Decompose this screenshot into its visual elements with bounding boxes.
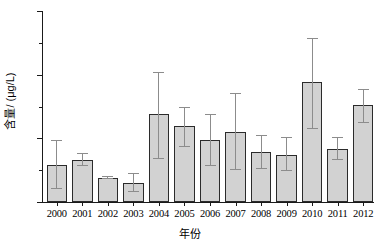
error-bar-cap-lower [179, 146, 190, 147]
x-axis-tick-label: 2000 [44, 208, 70, 220]
error-bar-stem [133, 174, 134, 192]
bar-group[interactable] [251, 11, 272, 202]
bar-group[interactable] [302, 11, 323, 202]
x-axis-tick-label: 2010 [299, 208, 325, 220]
error-bar-cap-upper [281, 137, 292, 138]
x-axis-tick [236, 202, 237, 206]
x-axis-title: 年份 [0, 225, 380, 241]
error-bar-cap-lower [102, 178, 113, 179]
error-bar-cap-lower [77, 165, 88, 166]
x-axis-tick [159, 202, 160, 206]
error-bar-cap-upper [332, 137, 343, 138]
x-axis-tick [57, 202, 58, 206]
error-bar-cap-lower [153, 158, 164, 159]
error-bar-cap-lower [358, 122, 369, 123]
error-bar-cap-lower [128, 191, 139, 192]
error-bar-stem [210, 115, 211, 166]
x-axis-tick [184, 202, 185, 206]
error-bar-cap-lower [332, 159, 343, 160]
y-axis-label-text: 含量/ (μg/L) [1, 72, 17, 129]
bar[interactable] [98, 178, 119, 202]
error-bar-cap-lower [256, 168, 267, 169]
x-axis-tick-label: 2007 [223, 208, 249, 220]
x-axis-tick-label: 2002 [95, 208, 121, 220]
bar-group[interactable] [174, 11, 195, 202]
x-axis-tick [261, 202, 262, 206]
x-axis-tick [108, 202, 109, 206]
x-axis-tick [133, 202, 134, 206]
error-bar-cap-upper [230, 93, 241, 94]
y-axis-label: 含量/ (μg/L) [0, 0, 19, 202]
error-bar-stem [235, 94, 236, 170]
bar-group[interactable] [200, 11, 221, 202]
x-axis-tick-label: 2011 [325, 208, 351, 220]
x-axis-tick [287, 202, 288, 206]
bar-group[interactable] [225, 11, 246, 202]
error-bar-stem [56, 141, 57, 189]
bar-group[interactable] [47, 11, 68, 202]
error-bar-cap-upper [153, 72, 164, 73]
bar-group[interactable] [276, 11, 297, 202]
bar-chart-figure: 含量/ (μg/L) 0.00.51.01.5 2000200120022003… [0, 0, 380, 245]
error-bar-stem [184, 108, 185, 147]
x-axis-tick [363, 202, 364, 206]
x-axis-tick-label: 2006 [197, 208, 223, 220]
error-bar-cap-upper [205, 114, 216, 115]
x-axis-tick-label: 2005 [171, 208, 197, 220]
bars-layer [42, 11, 374, 202]
error-bar-cap-upper [307, 38, 318, 39]
error-bar-cap-upper [51, 140, 62, 141]
error-bar-cap-lower [230, 169, 241, 170]
x-axis-tick-label: 2001 [69, 208, 95, 220]
error-bar-cap-lower [205, 165, 216, 166]
x-axis-tick [312, 202, 313, 206]
x-axis-line [42, 202, 374, 203]
error-bar-stem [286, 138, 287, 171]
x-axis-tick-label: 2008 [248, 208, 274, 220]
error-bar-stem [363, 90, 364, 123]
y-axis-tick [37, 202, 42, 203]
x-axis-tick-label: 2009 [274, 208, 300, 220]
error-bar-cap-upper [179, 107, 190, 108]
error-bar-cap-upper [102, 176, 113, 177]
bar-group[interactable] [353, 11, 374, 202]
x-axis-tick-label: 2003 [120, 208, 146, 220]
error-bar-cap-upper [77, 153, 88, 154]
error-bar-stem [337, 138, 338, 160]
error-bar-stem [261, 136, 262, 169]
bar-group[interactable] [327, 11, 348, 202]
x-axis-tick [210, 202, 211, 206]
bar-group[interactable] [72, 11, 93, 202]
x-axis-tick-label: 2004 [146, 208, 172, 220]
x-axis-tick-label: 2012 [350, 208, 376, 220]
bar-group[interactable] [123, 11, 144, 202]
error-bar-cap-upper [358, 89, 369, 90]
error-bar-stem [158, 73, 159, 158]
error-bar-cap-lower [51, 188, 62, 189]
error-bar-cap-upper [128, 173, 139, 174]
bar-group[interactable] [149, 11, 170, 202]
error-bar-stem [312, 39, 313, 129]
error-bar-cap-upper [256, 135, 267, 136]
bar-group[interactable] [98, 11, 119, 202]
x-axis-tick [338, 202, 339, 206]
error-bar-cap-lower [281, 170, 292, 171]
x-axis-tick [82, 202, 83, 206]
error-bar-cap-lower [307, 128, 318, 129]
